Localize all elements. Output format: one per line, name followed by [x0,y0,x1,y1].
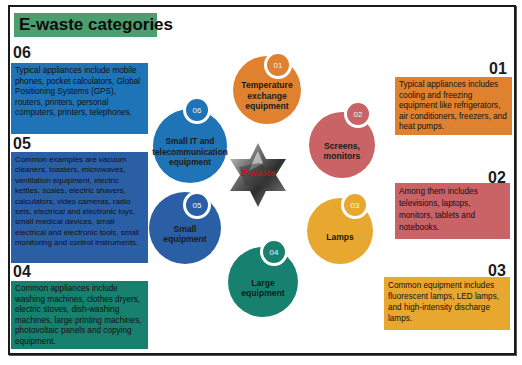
category-03-description: Common equipment includes fluorescent la… [384,277,510,330]
category-04-badge: 04 [260,238,288,266]
category-02-description: Among them includes televisions, laptops… [395,183,510,239]
category-01-badge: 01 [264,51,292,79]
category-03-name: Lamps [323,232,357,243]
category-05-number: 05 [13,136,31,152]
category-02-name: Screens, monitors [309,141,375,162]
category-04-number: 04 [13,264,31,280]
category-01-number: 01 [489,61,507,77]
category-05-description: Common examples are vacuum cleaners, toa… [11,152,148,263]
page-title: E-waste categories [14,13,157,37]
category-06-description: Typical appliances include mobile phones… [11,63,148,134]
category-04-description: Common appliances include washing machin… [11,281,148,349]
category-05-name: Small equipment [149,224,221,245]
category-01-name: Temperature exchange equipment [233,80,301,112]
category-03-badge: 03 [341,191,369,219]
category-01-description: Typical appliances includes cooling and … [395,77,512,135]
category-05-badge: 05 [183,191,211,219]
category-06-number: 06 [13,45,31,61]
category-06-name: Small IT and telecommunication equipment [149,136,231,168]
category-06-badge: 06 [183,96,211,124]
category-04-name: Large equipment [228,278,298,299]
category-02-badge: 02 [344,100,372,128]
center-label: E-waste [229,168,287,178]
